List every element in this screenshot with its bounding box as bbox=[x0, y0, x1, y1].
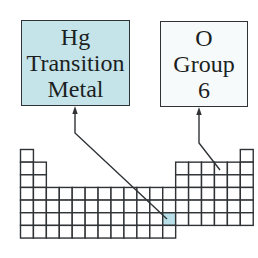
element-cell bbox=[124, 225, 137, 238]
element-cell bbox=[21, 150, 34, 163]
element-cell bbox=[163, 187, 176, 200]
arrowhead-icon bbox=[72, 106, 77, 114]
element-cell bbox=[85, 200, 98, 213]
element-cell bbox=[227, 162, 240, 175]
element-cell bbox=[33, 200, 46, 213]
element-cell bbox=[111, 213, 124, 226]
element-cell bbox=[46, 213, 59, 226]
element-cell bbox=[189, 175, 202, 188]
element-cell bbox=[21, 213, 34, 226]
element-cell bbox=[240, 150, 253, 163]
element-cell bbox=[85, 213, 98, 226]
element-cell bbox=[214, 162, 227, 175]
element-cell bbox=[72, 213, 85, 226]
element-cell bbox=[85, 225, 98, 238]
element-cell bbox=[21, 162, 34, 175]
element-cell bbox=[72, 200, 85, 213]
element-cell bbox=[59, 225, 72, 238]
element-cell bbox=[202, 187, 215, 200]
element-cell bbox=[176, 187, 189, 200]
element-cell bbox=[98, 187, 111, 200]
element-cell bbox=[33, 225, 46, 238]
element-cell bbox=[176, 175, 189, 188]
element-cell bbox=[46, 200, 59, 213]
element-cell bbox=[163, 225, 176, 238]
element-cell bbox=[214, 213, 227, 226]
element-cell bbox=[59, 200, 72, 213]
element-cell bbox=[33, 213, 46, 226]
element-cell bbox=[240, 175, 253, 188]
element-cell bbox=[189, 162, 202, 175]
element-cell bbox=[98, 225, 111, 238]
element-cell bbox=[21, 225, 34, 238]
element-cell bbox=[111, 225, 124, 238]
element-cell bbox=[227, 175, 240, 188]
element-cell bbox=[72, 225, 85, 238]
element-cell bbox=[33, 175, 46, 188]
element-cell bbox=[227, 213, 240, 226]
element-cell bbox=[46, 225, 59, 238]
element-cell bbox=[240, 213, 253, 226]
element-cell bbox=[176, 200, 189, 213]
element-cell bbox=[202, 175, 215, 188]
element-cell bbox=[111, 200, 124, 213]
element-cell bbox=[176, 162, 189, 175]
element-cell bbox=[124, 200, 137, 213]
arrowhead-icon bbox=[196, 107, 201, 115]
element-cell bbox=[202, 162, 215, 175]
element-cell bbox=[33, 162, 46, 175]
element-cell bbox=[98, 200, 111, 213]
element-cell bbox=[202, 200, 215, 213]
element-cell bbox=[214, 200, 227, 213]
element-cell bbox=[72, 187, 85, 200]
element-cell bbox=[240, 162, 253, 175]
element-cell bbox=[150, 200, 163, 213]
element-cell bbox=[202, 213, 215, 226]
element-cell bbox=[214, 187, 227, 200]
element-cell bbox=[189, 187, 202, 200]
element-cell bbox=[21, 187, 34, 200]
element-cell bbox=[176, 213, 189, 226]
hg-element-cell bbox=[163, 213, 176, 226]
element-cell bbox=[59, 213, 72, 226]
element-cell bbox=[214, 175, 227, 188]
element-cell bbox=[163, 200, 176, 213]
element-cell bbox=[46, 187, 59, 200]
o-leader-line bbox=[199, 112, 220, 170]
element-cell bbox=[240, 187, 253, 200]
element-cell bbox=[124, 213, 137, 226]
element-cell bbox=[33, 187, 46, 200]
element-cell bbox=[85, 187, 98, 200]
element-cell bbox=[111, 187, 124, 200]
element-cell bbox=[189, 213, 202, 226]
element-cell bbox=[150, 213, 163, 226]
element-cell bbox=[150, 225, 163, 238]
element-cell bbox=[98, 213, 111, 226]
element-cell bbox=[227, 200, 240, 213]
element-cell bbox=[21, 200, 34, 213]
element-cell bbox=[189, 200, 202, 213]
element-cell bbox=[240, 200, 253, 213]
element-cell bbox=[21, 175, 34, 188]
periodic-table-grid bbox=[21, 150, 254, 239]
element-cell bbox=[59, 187, 72, 200]
element-cell bbox=[227, 187, 240, 200]
element-cell bbox=[137, 213, 150, 226]
periodic-table-diagram bbox=[0, 0, 258, 258]
element-cell bbox=[137, 187, 150, 200]
element-cell bbox=[137, 225, 150, 238]
element-cell bbox=[150, 187, 163, 200]
